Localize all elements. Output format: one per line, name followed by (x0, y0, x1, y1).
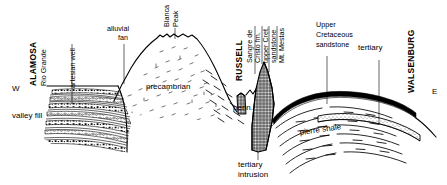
upper-cretaceous-sandstone-unit (272, 91, 417, 126)
tertiary-intrusion-unit (252, 62, 274, 152)
blanca-peak-label-line2: Peak (171, 10, 180, 27)
alluvial-fan-label-line2: fan (118, 33, 128, 42)
mt-mestas-label: Mt. Mestas (277, 27, 286, 63)
precambrian-label: precambrian (146, 82, 190, 91)
pierre-shale-label: pierre shale (299, 122, 342, 137)
city-label-alamosa: ALAMOSA (28, 42, 38, 86)
valley-fill-unit (44, 86, 135, 155)
tertiary-label: tertiary (358, 43, 382, 52)
upper-cretaceous-sandstone-label-line2: Cretaceous (316, 30, 353, 39)
saddle-notch (246, 89, 256, 95)
penn-label: penn. (233, 103, 253, 112)
precambrian-unit (114, 34, 229, 126)
upper-cretaceous-sandstone-label-line1: Upper (316, 20, 336, 29)
geologic-cross-section-figure: W E ALAMOSA Rio Grande artesian well all… (0, 0, 447, 185)
compass-west-label: W (12, 84, 20, 93)
artesian-well-label: artesian well (68, 48, 77, 88)
valley-fill-label: valley fill (12, 111, 42, 120)
blanca-peak-label-line1: Blanca (162, 5, 171, 27)
city-label-walsenburg: WALSENBURG (406, 30, 416, 94)
compass-east-label: E (432, 87, 437, 96)
tertiary-intrusion-label-line1: tertiary (238, 160, 262, 169)
upper-cretaceous-sandstone-label-line3: sandstone (316, 40, 349, 49)
alluvial-fan-label-line1: alluvial (107, 24, 129, 33)
tertiary-intrusion-label-line2: intrusion (238, 170, 268, 179)
rio-grande-label: Rio Grande (39, 49, 48, 86)
city-label-russell: RUSSELL (234, 40, 244, 81)
